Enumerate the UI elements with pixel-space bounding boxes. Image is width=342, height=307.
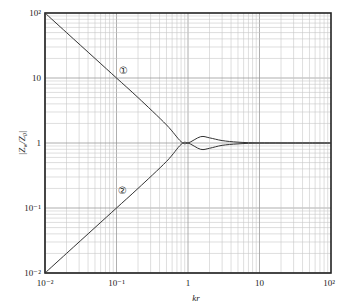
wave-impedance-chart: ① ② 10² 10 1 10⁻¹ 10⁻² 10⁻² 10⁻¹ 1 10 10… — [0, 0, 342, 307]
y-axis-label: |Zw/Z0| — [17, 131, 28, 156]
x-tick-label: 10⁻² — [37, 278, 54, 288]
y-tick-label: 1 — [37, 138, 42, 148]
x-tick-label: 10⁻¹ — [108, 278, 125, 288]
y-axis-label-text: |Zw/Z0| — [17, 131, 28, 156]
y-tick-label: 10⁻¹ — [24, 203, 41, 213]
y-tick-label: 10⁻² — [24, 268, 41, 278]
curve-2-label: ② — [118, 185, 127, 196]
x-tick-label: 10² — [323, 278, 335, 288]
y-tick-label: 10² — [29, 8, 41, 18]
x-tick-label: 10 — [255, 278, 265, 288]
x-axis-label: kr — [192, 293, 200, 303]
y-tick-label: 10 — [32, 73, 42, 83]
curve-1-label: ① — [119, 65, 128, 76]
x-tick-label: 1 — [186, 278, 191, 288]
